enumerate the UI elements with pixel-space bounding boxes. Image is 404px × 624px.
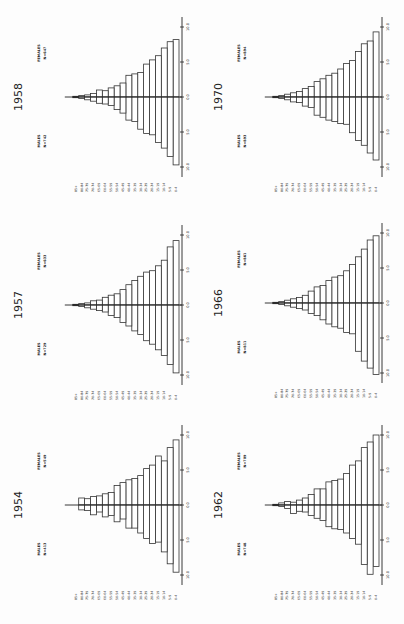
- axis-tick-label: 10.0: [386, 162, 390, 171]
- age-label: 55-59: [109, 183, 113, 192]
- bar-male-40-44: [126, 505, 132, 528]
- age-label: 60-64: [303, 591, 307, 600]
- bar-male-20-24: [150, 305, 156, 344]
- females-label: FEMALES: [237, 250, 241, 268]
- age-label: 60-64: [303, 183, 307, 192]
- age-label: 45-49: [121, 591, 125, 600]
- age-label: 50-54: [315, 591, 319, 600]
- bar-male-40-44: [126, 97, 132, 120]
- bar-male-45-49: [120, 505, 126, 519]
- age-label: 15-19: [156, 391, 160, 400]
- population-pyramids-figure: 1958MALESN=742FEMALESN=6470-45-910-1415-…: [0, 0, 404, 624]
- axis-tick-label: 10.0: [186, 570, 190, 579]
- bar-female-10-14: [361, 249, 367, 303]
- age-label: 70-74: [291, 591, 295, 600]
- females-n: N=633: [43, 254, 47, 267]
- age-label: 15-19: [356, 389, 360, 398]
- bar-male-55-59: [308, 97, 314, 108]
- axis-tick-label: 0.0: [186, 93, 190, 99]
- age-label: 30-34: [339, 389, 343, 398]
- age-label: 50-54: [115, 183, 119, 192]
- bar-male-40-44: [126, 305, 132, 326]
- bar-male-5-9: [367, 97, 373, 153]
- age-label: 70-74: [91, 591, 95, 600]
- bar-female-5-9: [367, 41, 373, 97]
- bar-male-45-49: [320, 303, 326, 320]
- bar-male-35-39: [332, 97, 338, 122]
- bar-female-35-39: [332, 481, 338, 506]
- bar-female-60-64: [302, 498, 308, 505]
- pyramid-1954: 1954MALESN=413FEMALESN=5490-45-910-1415-…: [12, 425, 190, 600]
- bar-female-20-24: [350, 265, 356, 304]
- females-n: N=549: [43, 454, 47, 467]
- bar-female-25-29: [144, 469, 150, 505]
- bar-female-65-69: [296, 91, 302, 97]
- bar-male-30-34: [138, 305, 144, 334]
- bar-male-20-24: [350, 505, 356, 539]
- age-label: 15-19: [156, 591, 160, 600]
- bar-male-25-29: [344, 97, 350, 124]
- bar-female-20-24: [150, 60, 156, 97]
- bar-male-15-19: [355, 303, 361, 351]
- age-label: 35-39: [133, 591, 137, 600]
- bar-female-45-49: [320, 79, 326, 97]
- bar-female-5-9: [167, 247, 173, 305]
- bar-male-35-39: [132, 505, 138, 528]
- age-label: 0-4: [174, 187, 178, 192]
- bar-female-0-4: [173, 40, 179, 97]
- bar-female-55-59: [108, 492, 114, 505]
- bar-male-10-14: [361, 303, 367, 361]
- bar-male-65-69: [296, 303, 302, 309]
- bar-male-5-9: [367, 505, 373, 574]
- bar-male-70-74: [291, 303, 297, 307]
- bar-male-50-54: [114, 305, 120, 318]
- bar-male-30-34: [138, 97, 144, 129]
- bar-male-10-14: [161, 305, 167, 355]
- axis-tick-label: 5.0: [386, 334, 390, 340]
- bar-male-15-19: [155, 305, 161, 350]
- axis-tick-label: 0.0: [386, 501, 390, 507]
- bar-female-30-34: [338, 276, 344, 303]
- bar-female-15-19: [355, 52, 361, 98]
- bar-female-20-24: [150, 271, 156, 305]
- age-label: 0-4: [374, 393, 378, 398]
- axis-tick-label: 5.0: [186, 266, 190, 272]
- bar-female-0-4: [173, 241, 179, 305]
- age-label: 80-84: [80, 391, 84, 400]
- age-label: 5-9: [168, 187, 172, 192]
- bar-male-20-24: [350, 303, 356, 334]
- bar-male-70-74: [91, 97, 97, 101]
- age-label: 40-44: [127, 591, 131, 600]
- age-label: 50-54: [315, 389, 319, 398]
- males-n: N=729: [43, 342, 47, 355]
- age-label: 10-14: [162, 391, 166, 400]
- age-label: 40-44: [327, 591, 331, 600]
- age-label: 35-39: [333, 591, 337, 600]
- bar-female-0-4: [373, 32, 379, 97]
- bar-male-25-29: [344, 303, 350, 332]
- bar-female-0-4: [373, 236, 379, 303]
- age-label: 35-39: [333, 183, 337, 192]
- pyramid-year-title: 1958: [12, 83, 25, 111]
- age-label: 60-64: [103, 183, 107, 192]
- axis-tick-label: 5.0: [386, 466, 390, 472]
- bar-male-50-54: [314, 97, 320, 115]
- age-label: 75-79: [85, 591, 89, 600]
- bar-male-55-59: [308, 505, 314, 516]
- bar-female-65-69: [296, 297, 302, 303]
- bar-male-50-54: [314, 303, 320, 316]
- axis-tick-label: 0.0: [386, 299, 390, 305]
- bar-female-65-69: [96, 90, 102, 97]
- axis-tick-label: 5.0: [186, 128, 190, 134]
- age-label: 70-74: [291, 183, 295, 192]
- age-label: 45-49: [321, 389, 325, 398]
- bar-male-55-59: [308, 303, 314, 314]
- bar-female-75-79: [285, 502, 291, 506]
- bar-female-45-49: [120, 483, 126, 505]
- bar-male-0-4: [173, 97, 179, 165]
- males-label: MALES: [37, 134, 41, 147]
- bar-male-55-59: [108, 505, 114, 516]
- bar-male-20-24: [150, 97, 156, 135]
- age-label: 0-4: [174, 395, 178, 400]
- bar-female-40-44: [126, 285, 132, 305]
